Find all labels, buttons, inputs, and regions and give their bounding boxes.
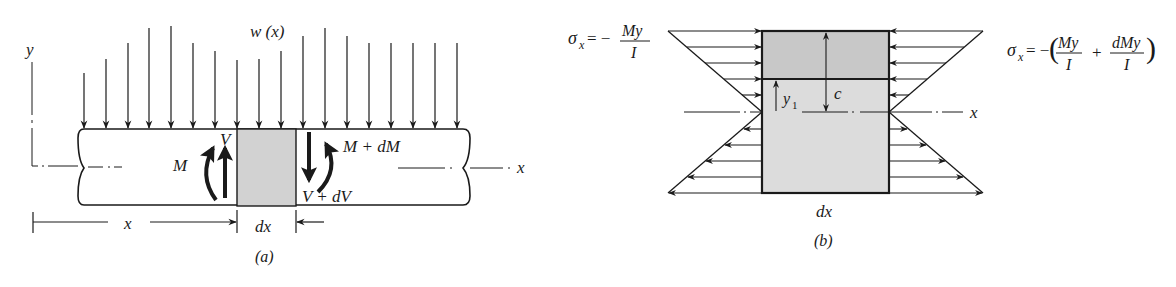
- x-axis-label: x: [516, 158, 525, 177]
- b-x-axis-label: x: [969, 103, 978, 122]
- equals-minus: = −: [587, 29, 610, 48]
- sigma-subscript: x: [578, 38, 585, 52]
- equals-minus-right: = −: [1026, 41, 1049, 60]
- sigma-subscript-right: x: [1017, 50, 1024, 64]
- distributed-load-arrows: w (x): [84, 22, 457, 128]
- figure-b-stress-distribution: x: [568, 22, 1156, 250]
- y-axis: y: [24, 40, 78, 166]
- numerator-2: dMy: [1112, 34, 1141, 52]
- load-label: w (x): [250, 22, 285, 41]
- dim-dx-label: dx: [255, 217, 272, 236]
- moment-left-label: M: [172, 156, 188, 175]
- moment-right-label: M + dM: [342, 137, 401, 156]
- numerator: My: [621, 22, 643, 40]
- plus-sign: +: [1092, 43, 1102, 62]
- sigma-symbol: σ: [568, 28, 578, 48]
- shear-right-label: V + dV: [302, 187, 354, 206]
- stress-formula-right: σ x = − ( My I + dMy I ): [1007, 31, 1156, 73]
- left-face-forces: M V: [172, 130, 233, 200]
- denominator: I: [630, 44, 637, 61]
- denominator-1: I: [1065, 56, 1072, 73]
- b-dim-dx-label: dx: [816, 202, 833, 221]
- dim-c-label: c: [834, 84, 842, 103]
- sigma-symbol-right: σ: [1007, 40, 1017, 60]
- right-face-forces: M + dM V + dV: [302, 132, 401, 206]
- dimension-lines: x dx: [33, 210, 324, 236]
- caption-b: (b): [814, 232, 833, 250]
- denominator-2: I: [1123, 56, 1130, 73]
- numerator-1: My: [1057, 34, 1079, 52]
- dim-y1-subscript: 1: [792, 99, 798, 111]
- y-axis-label: y: [24, 40, 34, 59]
- differential-element: [237, 129, 296, 206]
- beam-bending-diagram: y x: [0, 0, 1176, 287]
- dim-y1-label: y: [781, 90, 791, 108]
- shear-left-label: V: [220, 130, 233, 149]
- caption-a: (a): [255, 248, 274, 266]
- stress-formula-left: σ x = − My I: [568, 22, 650, 61]
- dim-x-label: x: [123, 214, 132, 233]
- figure-a-beam-element: y x: [24, 22, 525, 266]
- right-paren: ): [1146, 31, 1156, 65]
